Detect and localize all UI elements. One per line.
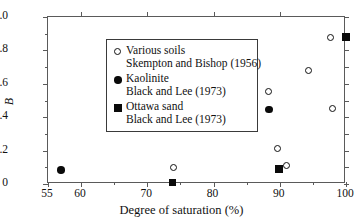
- y-tick-right: [344, 50, 349, 51]
- x-tick-label: 60: [60, 188, 100, 200]
- x-tick: [313, 182, 314, 185]
- y-tick-right: [344, 101, 349, 102]
- x-tick-top: [147, 12, 148, 17]
- data-point: [329, 105, 336, 112]
- y-tick: [43, 117, 48, 118]
- plot-area: Various soilsSkempton and Bishop (1956)K…: [47, 16, 345, 183]
- legend-series-name: Ottawa sand: [126, 100, 252, 113]
- legend-series-name: Various soils: [126, 44, 261, 57]
- y-tick: [45, 101, 48, 102]
- x-tick: [214, 182, 215, 187]
- data-point: [265, 88, 272, 95]
- legend-series-source: Skempton and Bishop (1956): [126, 57, 261, 70]
- legend-entry: KaoliniteBlack and Lee (1973): [112, 72, 252, 98]
- data-point: [57, 166, 65, 174]
- legend-entry: Ottawa sandBlack and Lee (1973): [112, 100, 252, 126]
- legend-marker-filled-circle-icon: [112, 72, 126, 85]
- y-tick-right: [344, 67, 349, 68]
- y-tick-label: 1.0: [0, 10, 8, 22]
- data-point: [327, 34, 334, 41]
- x-tick-top: [214, 12, 215, 17]
- y-tick-right: [344, 17, 349, 18]
- data-point: [305, 67, 312, 74]
- x-tick-label: 100: [325, 188, 363, 200]
- legend-marker-filled-square-icon: [112, 100, 126, 113]
- x-axis-title: Degree of saturation (%): [0, 203, 363, 218]
- x-tick-label: 70: [126, 188, 166, 200]
- x-tick: [48, 182, 49, 187]
- legend-marker-open-circle-icon: [112, 44, 126, 57]
- y-tick: [45, 67, 48, 68]
- scatter-chart-figure: 00.20.40.60.81.0 5560708090100 B Degree …: [0, 0, 363, 224]
- y-tick-label: 0.6: [0, 77, 8, 89]
- data-point: [275, 165, 283, 173]
- x-tick: [147, 182, 148, 187]
- x-tick: [114, 182, 115, 185]
- y-tick-label: 0.2: [0, 144, 8, 156]
- legend-series-source: Black and Lee (1973): [126, 85, 252, 98]
- y-tick: [45, 134, 48, 135]
- data-point: [170, 164, 177, 171]
- data-point: [265, 106, 273, 114]
- legend-text: Ottawa sandBlack and Lee (1973): [126, 100, 252, 126]
- y-tick-right: [344, 84, 349, 85]
- y-tick-label: 0.4: [0, 110, 8, 122]
- data-point: [283, 162, 290, 169]
- data-point: [169, 179, 177, 187]
- x-tick-top: [280, 12, 281, 17]
- x-tick-top: [81, 12, 82, 17]
- y-tick-label: 0: [0, 177, 8, 189]
- y-tick: [45, 34, 48, 35]
- x-tick-label: 80: [193, 188, 233, 200]
- data-point: [342, 33, 350, 41]
- legend-series-source: Black and Lee (1973): [126, 113, 252, 126]
- y-tick-right: [344, 167, 349, 168]
- x-tick: [247, 182, 248, 185]
- y-tick-right: [344, 117, 349, 118]
- x-tick-label: 90: [259, 188, 299, 200]
- y-tick: [43, 151, 48, 152]
- x-tick: [81, 182, 82, 187]
- y-tick: [43, 84, 48, 85]
- y-tick-right: [344, 151, 349, 152]
- legend-entry: Various soilsSkempton and Bishop (1956): [112, 44, 252, 70]
- x-tick: [280, 182, 281, 187]
- y-tick-label: 0.8: [0, 43, 8, 55]
- y-tick: [45, 167, 48, 168]
- legend-text: Various soilsSkempton and Bishop (1956): [126, 44, 261, 70]
- x-tick: [180, 182, 181, 185]
- x-tick: [346, 182, 347, 187]
- y-tick: [43, 17, 48, 18]
- legend-text: KaoliniteBlack and Lee (1973): [126, 72, 252, 98]
- y-axis-title: B: [2, 98, 17, 105]
- chart-legend: Various soilsSkempton and Bishop (1956)K…: [106, 39, 258, 132]
- y-tick-right: [344, 134, 349, 135]
- data-point: [274, 145, 281, 152]
- legend-series-name: Kaolinite: [126, 72, 252, 85]
- y-tick: [43, 50, 48, 51]
